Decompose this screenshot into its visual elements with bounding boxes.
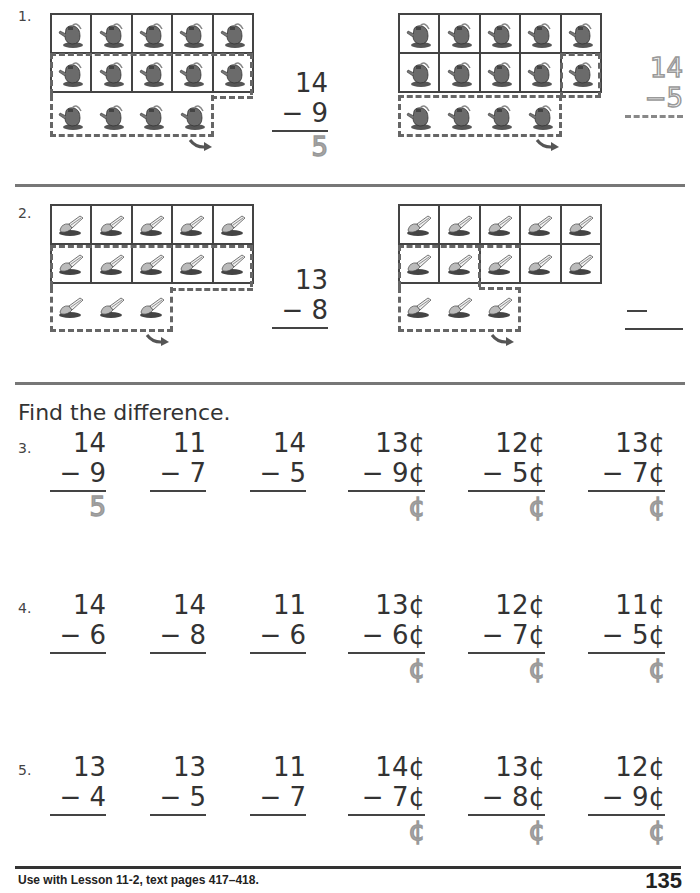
problem-1-left-equation: 14 − 9 5 [272, 68, 328, 162]
problem-3e: 12¢ − 5¢ ¢ [468, 428, 545, 522]
answer-traced: 5 [50, 492, 106, 522]
minuend: 12¢ [588, 752, 665, 782]
minuend: 12¢ [468, 590, 545, 620]
watering-can-icon [520, 53, 560, 92]
trowel-icon [213, 205, 253, 244]
minuend: 13 [272, 265, 328, 295]
minuend: 13 [50, 752, 106, 782]
problem-4c: 11 − 6 [250, 590, 306, 654]
minuend: 13¢ [468, 752, 545, 782]
minuend: 11 [150, 428, 206, 458]
problem-5f: 12¢ − 9¢ ¢ [588, 752, 665, 846]
grouping-outline [50, 287, 173, 332]
answer-cent-traced[interactable]: ¢ [588, 654, 665, 684]
minuend-traced: 14 [625, 53, 683, 83]
subtrahend: − 8¢ [468, 782, 545, 816]
problem-5d: 14¢ − 7¢ ¢ [348, 752, 425, 846]
problem-4f: 11¢ − 5¢ ¢ [588, 590, 665, 684]
subtrahend: − 9¢ [348, 458, 425, 492]
instruction-text: Find the difference. [18, 400, 231, 425]
answer-blank-line[interactable] [625, 328, 683, 330]
problem-5e: 13¢ − 8¢ ¢ [468, 752, 545, 846]
watering-can-icon [520, 14, 560, 53]
grouping-outline [170, 288, 253, 291]
answer-cent-traced[interactable]: ¢ [468, 654, 545, 684]
problem-4d: 13¢ − 6¢ ¢ [348, 590, 425, 684]
grouping-outline [211, 96, 253, 99]
problem-1-right-equation: 14 −5 [625, 53, 683, 118]
minuend: 13¢ [348, 428, 425, 458]
watering-can-icon [399, 14, 439, 53]
problem-4a: 14 − 6 [50, 590, 106, 654]
footer-divider [15, 866, 681, 869]
grouping-outline [398, 245, 481, 287]
subtrahend: − 5 [250, 458, 306, 492]
trowel-icon [520, 205, 560, 244]
minuend: 14 [150, 590, 206, 620]
problem-4e: 12¢ − 7¢ ¢ [468, 590, 545, 684]
subtrahend: − 5 [150, 782, 206, 816]
subtrahend: − 5¢ [468, 458, 545, 492]
watering-can-icon [399, 53, 439, 92]
watering-can-icon [439, 14, 479, 53]
subtrahend: − 8 [272, 295, 328, 329]
minuend: 14 [272, 68, 328, 98]
watering-can-icon [51, 14, 91, 53]
answer-cent-traced[interactable]: ¢ [588, 816, 665, 846]
section-divider [15, 184, 685, 187]
problem-2-left-equation: 13 − 8 [272, 265, 328, 329]
minuend: 13¢ [588, 428, 665, 458]
minuend: 11 [250, 590, 306, 620]
answer-cent-traced[interactable]: ¢ [348, 492, 425, 522]
arrow-icon [188, 138, 214, 152]
minuend: 14 [50, 590, 106, 620]
grouping-outline [478, 245, 521, 290]
subtrahend: − 9 [272, 98, 328, 132]
footer-lesson-reference: Use with Lesson 11-2, text pages 417–418… [18, 873, 259, 887]
subtrahend: − 4 [50, 782, 106, 816]
answer-cent-traced[interactable]: ¢ [348, 654, 425, 684]
grouping-outline [398, 287, 521, 332]
problem-5b: 13 − 5 [150, 752, 206, 816]
answer-cent-traced[interactable]: ¢ [468, 816, 545, 846]
subtrahend: − 6 [50, 620, 106, 654]
problem-4b: 14 − 8 [150, 590, 206, 654]
trowel-icon [132, 205, 172, 244]
trowel-icon [520, 244, 560, 283]
problem-number-5: 5. [18, 762, 31, 778]
problem-5a: 13 − 4 [50, 752, 106, 816]
arrow-icon [535, 138, 561, 152]
minuend: 14¢ [348, 752, 425, 782]
answer-cent-traced[interactable]: ¢ [468, 492, 545, 522]
subtrahend: − 6¢ [348, 620, 425, 654]
subtrahend: − 7 [150, 458, 206, 492]
minuend: 11¢ [588, 590, 665, 620]
answer-cent-traced[interactable]: ¢ [588, 492, 665, 522]
watering-can-icon [132, 14, 172, 53]
problem-3b: 11 − 7 [150, 428, 206, 492]
trowel-icon [439, 205, 479, 244]
problem-number-3: 3. [18, 440, 31, 456]
watering-can-icon [213, 14, 253, 53]
subtrahend-traced: −5 [625, 83, 683, 118]
answer-blank-minus[interactable] [627, 310, 647, 312]
subtrahend: − 7 [250, 782, 306, 816]
minuend: 14 [250, 428, 306, 458]
answer-cent-traced[interactable]: ¢ [348, 816, 425, 846]
problem-number-1: 1. [18, 8, 31, 24]
watering-can-icon [480, 14, 520, 53]
arrow-icon [490, 333, 516, 347]
minuend: 12¢ [468, 428, 545, 458]
watering-can-icon [480, 53, 520, 92]
minuend: 13 [150, 752, 206, 782]
problem-3d: 13¢ − 9¢ ¢ [348, 428, 425, 522]
problem-number-4: 4. [18, 600, 31, 616]
trowel-icon [561, 244, 601, 283]
grouping-outline [50, 53, 253, 95]
problem-3a: 14 − 9 5 [50, 428, 106, 522]
trowel-icon [480, 205, 520, 244]
minuend: 14 [50, 428, 106, 458]
subtrahend: − 7¢ [588, 458, 665, 492]
watering-can-icon [439, 53, 479, 92]
grouping-outline [398, 95, 562, 137]
